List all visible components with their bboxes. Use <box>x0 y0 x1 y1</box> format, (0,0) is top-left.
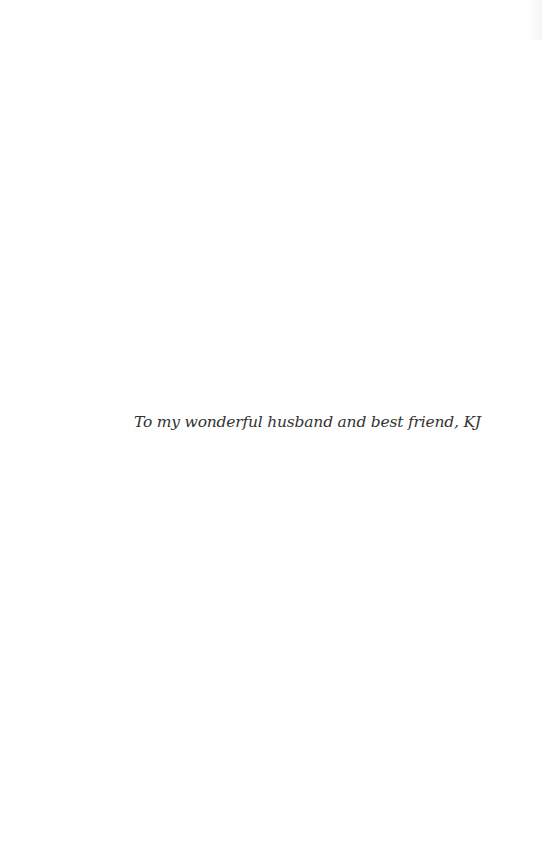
dedication-text: To my wonderful husband and best friend,… <box>134 411 444 433</box>
book-page: To my wonderful husband and best friend,… <box>0 0 542 863</box>
scan-edge-shadow <box>528 0 542 40</box>
